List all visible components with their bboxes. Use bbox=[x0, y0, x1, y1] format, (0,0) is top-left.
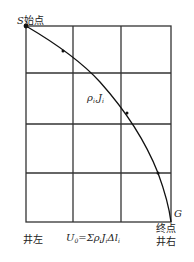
end-symbol: G bbox=[174, 209, 182, 219]
path-point bbox=[157, 172, 160, 175]
grid bbox=[26, 26, 171, 222]
formula-label: U0=ΣρiJiΔli bbox=[66, 233, 120, 244]
end-label: 终点 bbox=[156, 224, 176, 234]
path-segment-label: ρi,Ji bbox=[87, 93, 104, 104]
start-label: S始点 bbox=[17, 11, 44, 27]
left-well-label: 井左 bbox=[23, 235, 43, 245]
right-well-label: 井右 bbox=[156, 237, 176, 247]
path-point bbox=[62, 50, 65, 53]
path-point bbox=[126, 112, 129, 115]
